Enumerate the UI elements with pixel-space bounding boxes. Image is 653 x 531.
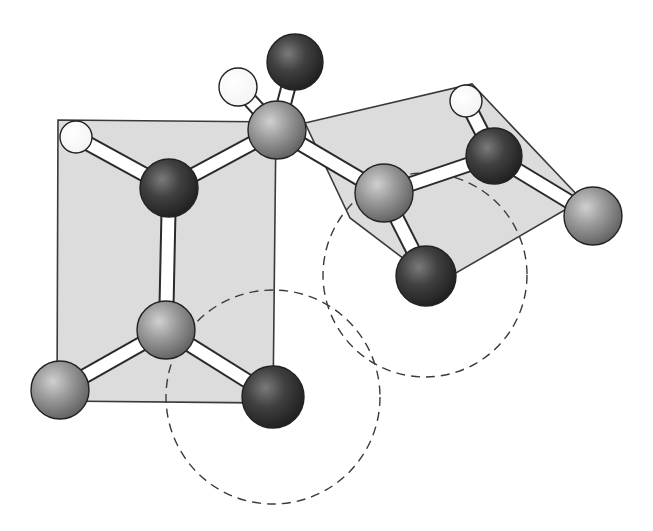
atom-dark-o2	[396, 246, 456, 306]
atom-gray-ca1	[248, 101, 306, 159]
atom-dark-n2	[466, 128, 522, 184]
molecule-canvas	[0, 0, 653, 531]
atom-gray-ca2	[564, 187, 622, 245]
molecule-diagram	[0, 0, 653, 531]
atom-dark-o1	[242, 366, 304, 428]
atom-hydrogen-ha	[219, 68, 257, 106]
atom-hydrogen-h1	[60, 121, 92, 153]
atom-hydrogen-h2	[450, 85, 482, 117]
atom-dark-top	[267, 34, 323, 90]
atom-gray-c1	[137, 301, 195, 359]
atom-gray-left	[31, 361, 89, 419]
atom-gray-c2	[355, 164, 413, 222]
atom-dark-n1	[140, 159, 198, 217]
